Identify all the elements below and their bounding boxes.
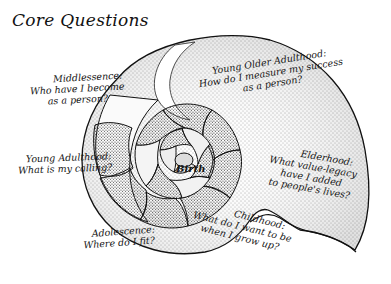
- stage-young-adulthood: Young Adulthood: What is my calling?: [18, 150, 113, 175]
- nautilus-shell-illustration: [0, 0, 391, 284]
- center-label-birth: Birth: [176, 163, 205, 174]
- page-title: Core Questions: [12, 10, 149, 30]
- stage-middlessence: Middlessence: Who have I become as a per…: [29, 70, 125, 108]
